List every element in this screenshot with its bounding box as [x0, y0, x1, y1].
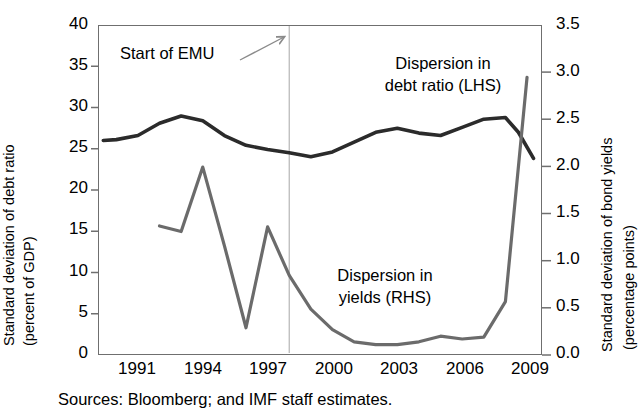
- emu-arrow-icon: [236, 32, 292, 66]
- x-tick-1997: 1997: [238, 359, 298, 379]
- left-tick-marks: [88, 20, 100, 362]
- right-tick-1-5: 1.5: [556, 202, 580, 222]
- left-tick-40: 40: [36, 14, 88, 34]
- left-tick-35: 35: [36, 55, 88, 75]
- right-axis-title-line2: (percentage points): [622, 120, 637, 350]
- left-tick-0: 0: [36, 343, 88, 363]
- annotation-yields-line1: Dispersion in: [300, 266, 470, 284]
- left-tick-5: 5: [36, 302, 88, 322]
- figure-root: Standard deviation of debt ratio (percen…: [0, 0, 644, 408]
- left-tick-20: 20: [36, 178, 88, 198]
- left-axis-title-line1: Standard deviation of debt ratio: [2, 26, 17, 346]
- right-tick-1-0: 1.0: [556, 249, 580, 269]
- left-tick-25: 25: [36, 137, 88, 157]
- x-tick-2009: 2009: [500, 359, 560, 379]
- right-tick-2-0: 2.0: [556, 155, 580, 175]
- right-tick-3-5: 3.5: [556, 14, 580, 34]
- right-tick-marks: [540, 20, 554, 362]
- right-tick-3-0: 3.0: [556, 61, 580, 81]
- annotation-yields-line2: yields (RHS): [300, 288, 470, 306]
- series-line-debt-ratio: [103, 116, 533, 159]
- x-tick-2003: 2003: [369, 359, 429, 379]
- left-tick-30: 30: [36, 96, 88, 116]
- annotation-debt-ratio-line1: Dispersion in: [358, 54, 528, 72]
- annotation-debt-ratio-line2: debt ratio (LHS): [358, 76, 528, 94]
- right-axis-title-line1: Standard deviation of bond yields: [600, 22, 615, 352]
- x-tick-2006: 2006: [435, 359, 495, 379]
- annotation-start-of-emu: Start of EMU: [120, 44, 214, 62]
- x-tick-2000: 2000: [304, 359, 364, 379]
- right-tick-0-5: 0.5: [556, 296, 580, 316]
- left-tick-10: 10: [36, 261, 88, 281]
- right-tick-2-5: 2.5: [556, 108, 580, 128]
- source-note: Sources: Bloomberg; and IMF staff estima…: [58, 390, 392, 408]
- x-tick-1994: 1994: [173, 359, 233, 379]
- x-tick-1991: 1991: [107, 359, 167, 379]
- left-axis-title-line2: (percent of GDP): [22, 96, 37, 346]
- left-tick-15: 15: [36, 219, 88, 239]
